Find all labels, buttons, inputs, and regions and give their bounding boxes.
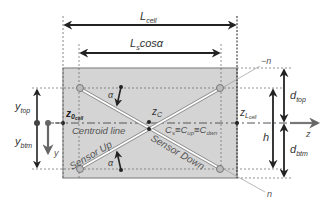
svg-text:dbtm: dbtm [290, 143, 308, 157]
centroid-point [147, 127, 151, 131]
zl-point [235, 121, 239, 125]
svg-text:α: α [108, 158, 114, 168]
svg-text:h: h [263, 131, 269, 143]
svg-text:zLcell: zLcell [239, 107, 257, 120]
sensor-cell-diagram: Lcell Lscosα −n n z α α z0cell zC zLcell… [0, 0, 331, 209]
svg-text:α: α [108, 90, 114, 100]
svg-text:−n: −n [261, 56, 271, 66]
normal-n-line [222, 168, 265, 192]
svg-text:y: y [53, 148, 59, 158]
svg-text:Lscosα: Lscosα [130, 37, 164, 51]
svg-text:n: n [267, 189, 272, 199]
zc-point [147, 120, 151, 124]
svg-text:ybtm: ybtm [14, 135, 32, 149]
transducer-top-left [77, 85, 84, 92]
svg-text:dtop: dtop [290, 89, 306, 104]
transducer-bottom-right [217, 166, 224, 173]
svg-text:Lcell: Lcell [140, 10, 157, 24]
svg-text:Centroid line: Centroid line [72, 125, 125, 136]
svg-text:z: z [305, 129, 311, 139]
svg-text:ytop: ytop [14, 100, 30, 115]
transducer-top-right [217, 85, 224, 92]
